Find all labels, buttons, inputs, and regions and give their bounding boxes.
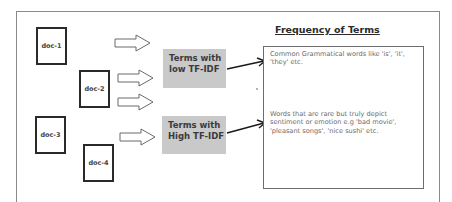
block-arrow-icon xyxy=(118,70,153,86)
hollow-arrow-icons xyxy=(115,35,155,145)
category-line1: Terms with xyxy=(169,53,226,64)
description-line: 'pleasant songs', 'nice sushi' etc. xyxy=(270,127,420,135)
category-line1: Terms with xyxy=(168,120,226,131)
diagram-title: Frequency of Terms xyxy=(275,24,380,35)
description-high-tfidf: Words that are rare but truly depict sen… xyxy=(270,110,420,135)
description-line: Common Grammatical words like 'is', 'it'… xyxy=(270,50,420,58)
category-line2: low TF-IDF xyxy=(169,64,226,75)
category-high-tfidf: Terms with High TF-IDF xyxy=(162,116,226,154)
connector-arrow-low xyxy=(227,61,264,69)
category-low-tfidf: Terms with low TF-IDF xyxy=(163,49,226,88)
stray-dot xyxy=(256,88,258,90)
connector-arrow-high xyxy=(227,123,264,133)
block-arrow-icon xyxy=(118,94,153,110)
description-line: 'they' etc. xyxy=(270,58,420,66)
description-line: Words that are rare but truly depict xyxy=(270,110,420,118)
category-line2: High TF-IDF xyxy=(168,131,226,142)
description-low-tfidf: Common Grammatical words like 'is', 'it'… xyxy=(270,50,420,67)
description-line: sentiment or emotion e.g 'bad movie', xyxy=(270,118,420,126)
block-arrow-icon xyxy=(120,129,155,145)
block-arrow-icon xyxy=(115,35,150,51)
